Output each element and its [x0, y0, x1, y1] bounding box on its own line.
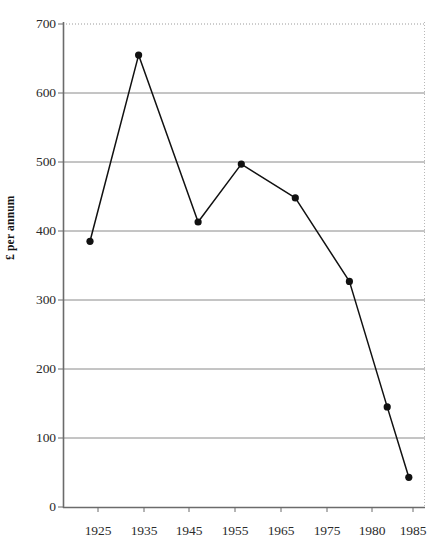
y-axis-ticks — [58, 24, 63, 507]
data-point-1984 — [405, 474, 412, 481]
chart-container: £ per annum 700 600 500 400 300 200 100 … — [0, 0, 439, 557]
series-markers — [86, 52, 412, 481]
data-point-1980 — [384, 403, 391, 410]
plot-area — [0, 0, 439, 557]
data-point-1925 — [86, 238, 93, 245]
data-point-1945 — [195, 218, 202, 225]
data-point-1953 — [238, 161, 245, 168]
data-point-1934 — [135, 52, 142, 59]
gridlines — [63, 24, 425, 438]
series-line — [90, 55, 409, 477]
data-point-1973 — [346, 278, 353, 285]
data-point-1963 — [292, 194, 299, 201]
